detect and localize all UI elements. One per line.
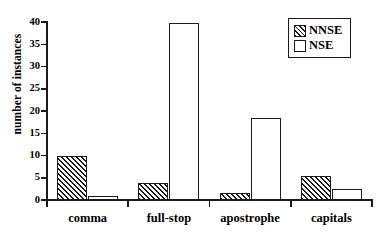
y-tick-mark <box>41 133 47 135</box>
legend-item-nnse: NNSE <box>294 23 342 38</box>
y-tick-label: 40 <box>10 17 40 27</box>
y-tick-label: 0 <box>10 195 40 205</box>
y-tick-label: 25 <box>10 83 40 93</box>
y-tick-label: 15 <box>10 128 40 138</box>
x-tick-label-capitals: capitals <box>291 211 372 226</box>
legend-label-nse: NSE <box>309 39 333 52</box>
legend-label-nnse: NNSE <box>309 24 342 37</box>
chart-legend: NNSE NSE <box>288 18 351 58</box>
x-tick-label-full-stop: full-stop <box>128 211 209 226</box>
x-tick-mark <box>209 200 211 207</box>
bar-comma-nnse <box>57 156 87 201</box>
y-tick-label: 30 <box>10 61 40 71</box>
bar-capitals-nse <box>332 189 362 200</box>
x-tick-mark <box>371 200 373 207</box>
y-tick-label: 5 <box>10 172 40 182</box>
y-tick-mark <box>41 177 47 179</box>
y-tick-mark <box>41 44 47 46</box>
legend-item-nse: NSE <box>294 38 342 53</box>
x-tick-mark <box>290 200 292 207</box>
bar-comma-nse <box>88 196 118 200</box>
legend-swatch-nnse-icon <box>294 25 306 37</box>
x-tick-label-apostrophe: apostrophe <box>210 211 291 226</box>
x-tick-mark <box>46 200 48 207</box>
x-tick-label-comma: comma <box>47 211 128 226</box>
y-tick-mark <box>41 110 47 112</box>
bar-apostrophe-nse <box>251 118 281 200</box>
bar-chart: number of instances 0510152025303540 com… <box>0 0 382 252</box>
bar-capitals-nnse <box>301 176 331 200</box>
y-tick-label: 20 <box>10 106 40 116</box>
y-tick-mark <box>41 21 47 23</box>
x-tick-mark <box>127 200 129 207</box>
legend-swatch-nse-icon <box>294 40 306 52</box>
y-tick-mark <box>41 88 47 90</box>
y-tick-mark <box>41 66 47 68</box>
bar-full-stop-nnse <box>138 183 168 200</box>
bar-apostrophe-nnse <box>220 193 250 200</box>
y-tick-label: 10 <box>10 150 40 160</box>
y-tick-label: 35 <box>10 39 40 49</box>
y-tick-mark <box>41 155 47 157</box>
bar-full-stop-nse <box>169 23 199 200</box>
